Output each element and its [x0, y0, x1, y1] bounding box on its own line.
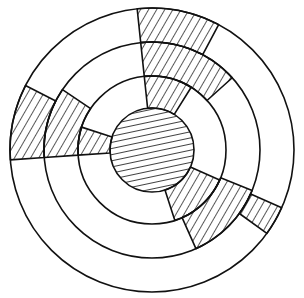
- concentric-ring-diagram: [0, 0, 304, 298]
- hatched-sector-left-inner: [78, 127, 112, 155]
- hatched-core-circle: [110, 108, 194, 192]
